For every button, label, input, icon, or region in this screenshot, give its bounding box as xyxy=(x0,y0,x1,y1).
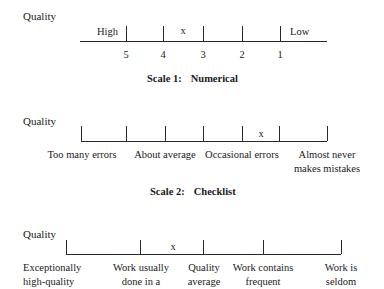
scale-1-caption-name: Numerical xyxy=(191,73,238,84)
scale-1-low-label: Low xyxy=(290,26,309,37)
scale-1-number-3: 3 xyxy=(200,49,205,60)
scale-3-label-exceptionally: Exceptionally high-quality xyxy=(23,261,81,289)
scale-2-quality-label: Quality xyxy=(23,115,56,127)
scale-1-number-1: 1 xyxy=(277,49,282,60)
scale-1-number-2: 2 xyxy=(239,49,244,60)
scale-3-tick xyxy=(66,240,67,254)
scale-2-caption-prefix: Scale 2: xyxy=(150,186,185,197)
scale-3-axis-line xyxy=(66,254,341,255)
scale-1-selected-mark: x xyxy=(180,25,185,36)
scale-3-tick xyxy=(140,240,141,254)
scale-1-caption: Scale 1:Numerical xyxy=(147,73,238,84)
scale-2-caption: Scale 2:Checklist xyxy=(150,186,236,197)
scale-1-caption-prefix: Scale 1: xyxy=(147,73,182,84)
scale-1-number-4: 4 xyxy=(160,49,165,60)
scale-3-quality-label: Quality xyxy=(23,228,56,240)
scale-2-axis-line xyxy=(81,141,327,142)
scale-2-caption-name: Checklist xyxy=(194,186,236,197)
scale-2-selected-mark: x xyxy=(258,128,263,139)
scale-2-tick xyxy=(242,126,243,141)
scale-3-label-work-is-seldom: Work is seldom xyxy=(325,261,358,289)
scale-2-label-occasional-errors: Occasional errors xyxy=(205,148,279,162)
scale-3-tick xyxy=(263,240,264,254)
scale-1-tick xyxy=(242,26,243,41)
scale-3-label-work-usually: Work usually done in a xyxy=(113,261,169,289)
scale-3-selected-mark: x xyxy=(170,241,175,252)
scale-3-label-quality-average: Quality average xyxy=(188,261,221,289)
scale-1-high-label: High xyxy=(97,26,118,37)
scale-3-tick xyxy=(203,240,204,254)
scale-1-quality-label: Quality xyxy=(23,10,56,22)
scale-2-tick xyxy=(126,126,127,141)
scale-2-label-about-average: About average xyxy=(134,148,196,162)
scale-2-tick xyxy=(279,126,280,141)
scale-1-tick xyxy=(163,26,164,41)
scale-2-tick xyxy=(165,126,166,141)
scale-1-number-5: 5 xyxy=(123,49,128,60)
scale-1-tick xyxy=(280,26,281,41)
scale-1-tick xyxy=(203,26,204,41)
scale-2-label-almost-never: Almost never makes mistakes xyxy=(294,148,360,176)
scale-2-label-too-many-errors: Too many errors xyxy=(47,148,116,162)
scale-2-tick xyxy=(327,126,328,141)
scale-3-tick xyxy=(341,240,342,254)
scale-1-tick xyxy=(126,26,127,41)
scale-1-axis-line xyxy=(80,41,327,42)
scale-2-tick xyxy=(81,126,82,141)
scale-3-label-work-contains: Work contains frequent xyxy=(233,261,294,289)
scale-2-tick xyxy=(203,126,204,141)
